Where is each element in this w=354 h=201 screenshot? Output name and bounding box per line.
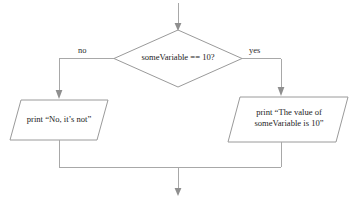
flowchart-svg — [0, 0, 354, 201]
output-yes-label: print “The value of someVariable is 10” — [236, 107, 342, 129]
output-no-label: print “No, it’s not” — [12, 114, 106, 125]
arrow-head-exit — [175, 188, 182, 196]
output-yes-line-2: someVariable is 10” — [236, 118, 342, 129]
flowchart-canvas: someVariable == 10? print “No, it’s not”… — [0, 0, 354, 201]
edge-label-yes: yes — [249, 45, 260, 56]
edge-label-no: no — [78, 45, 87, 56]
output-yes-line-1: print “The value of — [236, 107, 342, 118]
decision-label: someVariable == 10? — [118, 52, 238, 63]
arrow-head-no — [56, 90, 63, 99]
arrow-head-yes — [278, 87, 285, 96]
